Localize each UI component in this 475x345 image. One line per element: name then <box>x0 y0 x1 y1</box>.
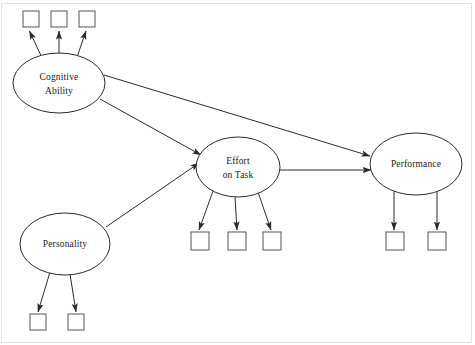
personality-label-line-1: Personality <box>43 239 87 249</box>
path-personality-to-effort-on-task <box>106 163 199 227</box>
cognitive-ability-indicator-3[interactable] <box>79 11 95 27</box>
effort-on-task-indicator-3[interactable] <box>263 232 281 250</box>
personality-indicator-2[interactable] <box>68 314 84 330</box>
latent-node-personality[interactable]: Personality <box>20 213 110 275</box>
effort-on-task-label-line-2: on Task <box>223 170 254 180</box>
cognitive-ability-label-line-1: Cognitive <box>40 72 79 82</box>
performance-indicator-2[interactable] <box>428 232 446 250</box>
loading-effort-on-task-3 <box>258 192 271 230</box>
performance-label-line-1: Performance <box>391 159 441 169</box>
path-cognitive-ability-to-effort-on-task <box>100 99 201 155</box>
performance-indicator-1[interactable] <box>386 232 404 250</box>
effort-on-task-indicator-2[interactable] <box>228 232 246 250</box>
personality-indicator-1[interactable] <box>30 314 46 330</box>
effort-on-task-ellipse[interactable] <box>196 137 280 197</box>
cognitive-ability-ellipse[interactable] <box>13 53 105 113</box>
latent-node-cognitive-ability[interactable]: Cognitive Ability <box>13 53 105 113</box>
loading-personality-2 <box>70 274 76 312</box>
latent-node-performance[interactable]: Performance <box>370 133 462 195</box>
latent-node-effort-on-task[interactable]: Effort on Task <box>196 137 280 197</box>
path-diagram: Cognitive Ability Personality Effort on … <box>0 0 475 345</box>
loading-effort-on-task-2 <box>235 197 237 230</box>
effort-on-task-indicator-1[interactable] <box>191 232 209 250</box>
loading-effort-on-task-1 <box>199 191 213 230</box>
loading-personality-1 <box>38 272 50 312</box>
cognitive-ability-label-line-2: Ability <box>45 86 73 96</box>
effort-on-task-label-line-1: Effort <box>226 156 250 166</box>
diagram-canvas: Cognitive Ability Personality Effort on … <box>0 0 475 345</box>
cognitive-ability-indicator-2[interactable] <box>51 11 67 27</box>
cognitive-ability-indicator-1[interactable] <box>23 11 39 27</box>
